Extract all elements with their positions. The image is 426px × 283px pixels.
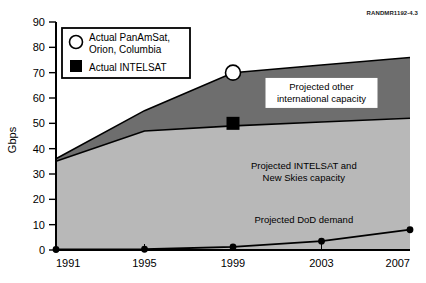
y-axis-title: Gbps <box>6 126 18 153</box>
y-tick-label-30: 30 <box>33 168 45 180</box>
y-tick-label-70: 70 <box>33 67 45 79</box>
x-tick-label-1999: 1999 <box>221 257 245 269</box>
y-tick-label-90: 90 <box>33 16 45 28</box>
y-tick-label-20: 20 <box>33 193 45 205</box>
x-tick-label-1991: 1991 <box>56 257 80 269</box>
y-tick-label-60: 60 <box>33 92 45 104</box>
annot-dod-line1: Projected DoD demand <box>254 214 353 225</box>
x-tick-label-2007: 2007 <box>386 257 410 269</box>
legend-label-panamsat-line2: Orion, Columbia <box>89 44 162 55</box>
dod-demand-point-2003 <box>318 238 325 245</box>
annot-other-intl-line2: international capacity <box>277 93 366 104</box>
legend-label-panamsat-line1: Actual PanAmSat, <box>89 32 170 43</box>
y-tick-label-0: 0 <box>39 244 45 256</box>
y-tick-label-80: 80 <box>33 41 45 53</box>
annot-intelsat-newskies-line2: New Skies capacity <box>263 172 346 183</box>
chart-figure: RANDMR1192-4.3 0102030405060708090 19911… <box>0 0 426 283</box>
legend-label-intelsat: Actual INTELSAT <box>89 62 167 73</box>
dod-demand-point-2007 <box>407 226 414 233</box>
annot-other-intl-line1: Projected other <box>289 81 353 92</box>
marker-actual-panamsat-orion-columbia <box>226 65 241 80</box>
y-tick-label-50: 50 <box>33 117 45 129</box>
open-circle-icon <box>70 36 83 49</box>
y-tick-label-10: 10 <box>33 219 45 231</box>
y-axis-ticks: 0102030405060708090 <box>33 16 56 256</box>
marker-actual-intelsat <box>227 117 240 130</box>
annot-intelsat-newskies-line1: Projected INTELSAT and <box>251 160 357 171</box>
chart-legend: Actual PanAmSat, Orion, Columbia Actual … <box>62 28 190 78</box>
capacity-area-chart: 0102030405060708090 19911995199920032007… <box>0 0 426 283</box>
x-tick-label-1995: 1995 <box>132 257 156 269</box>
y-tick-label-40: 40 <box>33 143 45 155</box>
filled-square-icon <box>70 60 82 72</box>
x-tick-label-2003: 2003 <box>309 257 333 269</box>
